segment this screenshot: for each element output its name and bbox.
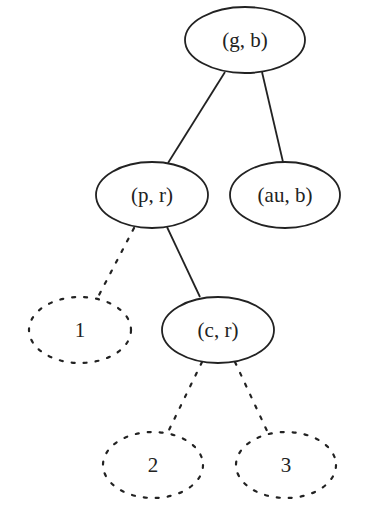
edge-cr-n2 [168,362,202,432]
tree-node-n1: 1 [29,297,131,363]
tree-node-n3: 3 [236,432,336,498]
tree-node-pr: (p, r) [96,162,208,228]
node-label: 2 [148,453,159,477]
tree-node-aub: (au, b) [230,162,340,228]
node-label: (g, b) [222,28,268,52]
tree-diagram: (g, b)(p, r)(au, b)1(c, r)23 [0,0,388,524]
node-label: (c, r) [198,318,239,342]
tree-node-n2: 2 [103,432,203,498]
edge-pr-cr [167,227,200,297]
edge-cr-n3 [235,362,268,433]
tree-svg: (g, b)(p, r)(au, b)1(c, r)23 [0,0,388,524]
node-label: (p, r) [131,183,173,207]
tree-node-gb: (g, b) [185,7,305,73]
edge-pr-n1 [98,228,134,297]
edge-gb-aub [262,72,283,162]
node-label: 1 [75,318,86,342]
node-label: 3 [281,453,292,477]
tree-node-cr: (c, r) [162,297,274,363]
node-label: (au, b) [258,183,313,207]
edge-gb-pr [168,72,225,163]
